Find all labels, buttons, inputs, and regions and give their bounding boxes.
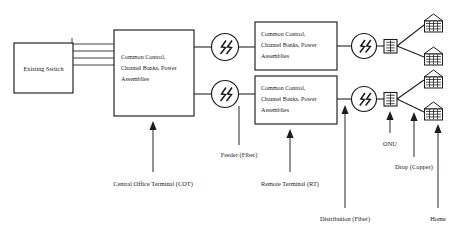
callout-rt: Remote Terminal (RT) (261, 129, 319, 188)
callout-onu: ONU (383, 111, 397, 147)
drop-copper-lower-a (397, 80, 424, 99)
cot-box[interactable] (114, 30, 194, 116)
rt-upper-label-line1: Common Control, (261, 31, 306, 37)
drop-copper-upper-b (397, 46, 424, 57)
drop-copper-upper-a (397, 25, 424, 46)
callout-onu-arrowhead (386, 111, 393, 120)
callout-drop: Drop (Copper) (395, 112, 433, 171)
rt-upper-label-line2: Channel Banks, Power (261, 42, 317, 48)
transceiver-cot-lower[interactable] (212, 81, 239, 108)
callout-cot: Central Office Terminal (COT) (113, 121, 193, 188)
rt-lower-label-line3: Assemblies (261, 107, 290, 113)
callout-home: Home (430, 124, 446, 222)
rt-lower-label-line2: Channel Banks, Power (261, 96, 317, 102)
transceiver-rt-lower[interactable] (352, 87, 377, 112)
callout-drop-label: Drop (Copper) (395, 163, 433, 171)
transceiver-rt-upper[interactable] (352, 34, 377, 59)
remote-terminal-lower-node[interactable]: Common Control, Channel Banks, Power Ass… (255, 76, 337, 124)
cot-label-line3: Assemblies (121, 76, 150, 82)
callout-rt-arrowhead (286, 129, 293, 138)
onu-upper-node[interactable] (384, 40, 397, 54)
home-icon[interactable] (424, 102, 443, 120)
transceiver-cot-upper[interactable] (212, 34, 239, 61)
home-node-2[interactable] (424, 47, 443, 65)
rt-lower-label-line1: Common Control, (261, 85, 306, 91)
callout-distribution-label: Distribution (Fiber) (320, 215, 370, 223)
home-icon[interactable] (424, 70, 443, 88)
drop-copper-lower-b (397, 99, 424, 112)
remote-terminal-upper-node[interactable]: Common Control, Channel Banks, Power Ass… (255, 22, 337, 70)
home-node-4[interactable] (424, 102, 443, 120)
cot-label-line1: Common Control, (121, 54, 166, 60)
callout-cot-label: Central Office Terminal (COT) (113, 180, 193, 188)
callout-home-label: Home (430, 215, 446, 222)
existing-switch-label: Existing Switch (23, 65, 64, 72)
existing-switch-node[interactable]: Existing Switch (14, 43, 73, 93)
home-node-3[interactable] (424, 70, 443, 88)
ftth-network-diagram: Existing Switch Common Control, Channel … (0, 0, 475, 244)
callout-feeder-label: Feeder (Fiber) (221, 151, 258, 159)
diagram-canvas: Existing Switch Common Control, Channel … (0, 0, 475, 244)
callout-drop-arrowhead (410, 112, 417, 121)
callout-cot-arrowhead (149, 121, 156, 130)
home-icon[interactable] (424, 14, 443, 32)
cot-label-line2: Channel Banks, Power (121, 65, 177, 71)
callout-home-arrowhead (434, 124, 441, 133)
callout-rt-label: Remote Terminal (RT) (261, 180, 319, 188)
callout-distribution-arrowhead (341, 105, 348, 114)
trunk-lines (72, 38, 114, 72)
rt-upper-label-line3: Assemblies (261, 53, 290, 59)
cot-node[interactable]: Common Control, Channel Banks, Power Ass… (114, 30, 194, 116)
callout-onu-label: ONU (383, 140, 397, 147)
home-icon[interactable] (424, 47, 443, 65)
onu-lower-node[interactable] (384, 93, 397, 107)
home-node-1[interactable] (424, 14, 443, 32)
callout-feeder: Feeder (Fiber) (221, 106, 258, 159)
